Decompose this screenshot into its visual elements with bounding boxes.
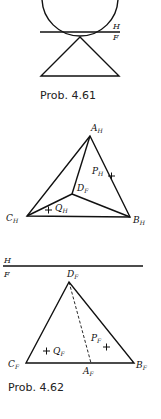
label-b-h: BH bbox=[132, 215, 146, 226]
prob-4-62-front-view: DF CF BF AF QF PF bbox=[8, 269, 148, 377]
label-a-h: AH bbox=[90, 123, 104, 134]
circle-top-view bbox=[42, 0, 118, 36]
caption-prob-4-62: Prob. 4.62 bbox=[8, 381, 64, 394]
fold-label-f: F bbox=[112, 33, 119, 42]
triangle-front-view bbox=[41, 37, 119, 76]
label-p-h: PH bbox=[91, 166, 104, 177]
label-d-f: DF bbox=[66, 269, 79, 280]
dashed-edge-d-a bbox=[69, 282, 91, 363]
point-p-cross bbox=[103, 344, 110, 351]
label-q-h: QH bbox=[55, 203, 68, 214]
prob-4-61-figure: H F bbox=[40, 0, 121, 76]
point-q-cross bbox=[43, 348, 50, 355]
fold-label-h: H bbox=[112, 22, 121, 31]
label-d-f: DF bbox=[76, 183, 89, 194]
fold-label-f: F bbox=[3, 270, 10, 279]
label-b-f: BF bbox=[135, 360, 148, 371]
label-c-h: CH bbox=[6, 213, 19, 224]
point-q-cross bbox=[45, 207, 52, 214]
prob-4-62-top-view: AH BH CH DF PH QH bbox=[6, 123, 146, 226]
label-a-f: AF bbox=[82, 366, 95, 377]
fold-label-h: H bbox=[3, 256, 12, 265]
label-p-f: PF bbox=[90, 333, 102, 344]
edge-b-d bbox=[72, 194, 130, 217]
diagram-canvas: H F AH BH CH DF PH QH H F DF CF BF AF QF… bbox=[0, 0, 161, 419]
caption-prob-4-61: Prob. 4.61 bbox=[40, 89, 96, 102]
label-q-f: QF bbox=[53, 346, 65, 357]
label-c-f: CF bbox=[8, 359, 20, 370]
